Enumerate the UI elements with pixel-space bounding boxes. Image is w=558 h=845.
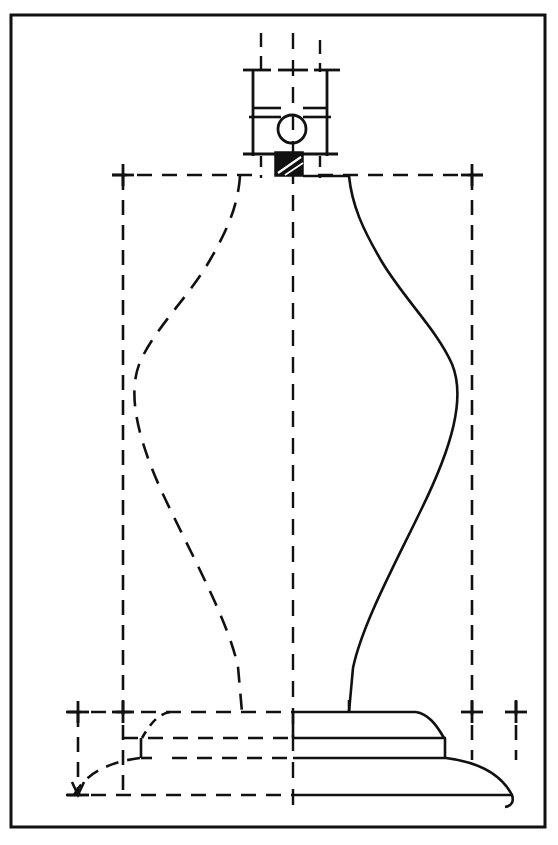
hatched-tenon-group — [275, 152, 303, 176]
drawing-page — [0, 0, 558, 845]
technical-drawing-canvas — [0, 0, 558, 845]
